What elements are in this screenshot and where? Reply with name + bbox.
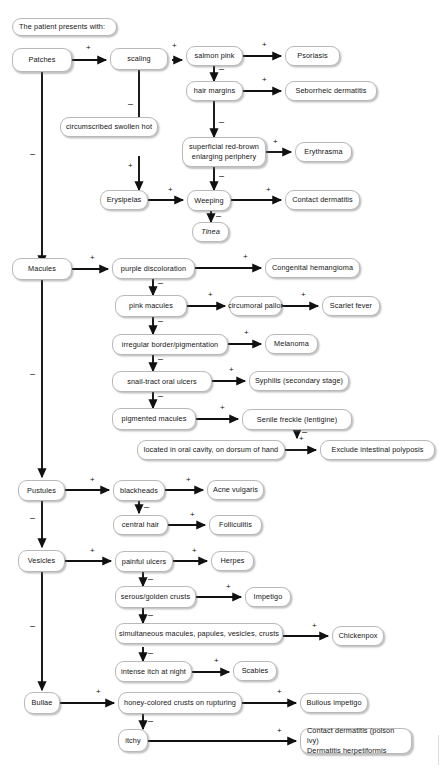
connector-layer [0, 0, 442, 772]
node-chickenpox[interactable]: Chickenpox [332, 626, 384, 646]
sign-serous-impetigo: + [226, 583, 231, 591]
sign-vesicles-painful: + [90, 547, 95, 555]
sign-macules-purple: + [90, 254, 95, 262]
sign-purple-pink: – [158, 279, 163, 288]
node-painful-ulcers[interactable]: painful ulcers [115, 551, 173, 572]
node-irregular-border[interactable]: irregular border/pigmentation [112, 334, 228, 355]
node-congenital-hemangioma[interactable]: Congenital hemangioma [265, 258, 360, 278]
sign-irregular-snail: – [158, 355, 163, 364]
node-snail-tract[interactable]: snail-tract oral ulcers [112, 371, 212, 392]
sign-scaling-salmon: + [172, 42, 177, 50]
sign-simultaneous-intense: – [148, 649, 153, 658]
node-pink-macules[interactable]: pink macules [115, 295, 187, 317]
sign-pink-irregular: – [158, 317, 163, 326]
sign-itchy-contact: + [277, 727, 282, 735]
sign-hair-seborrheic: + [262, 76, 267, 84]
node-intense-itch[interactable]: intense itch at night [115, 661, 192, 682]
page-edge-mark [438, 735, 442, 765]
sign-macules-pustules: – [30, 370, 35, 379]
node-hair-margins[interactable]: hair margins [186, 81, 243, 101]
intro-box: The patient presents with: [12, 18, 117, 36]
sign-intense-scabies: + [214, 657, 219, 665]
sign-honey-bullous: + [277, 688, 282, 696]
sign-bullae-honey: + [96, 688, 101, 696]
node-patches[interactable]: Patches [12, 48, 72, 72]
sign-pustules-vesicles: – [30, 514, 35, 523]
node-acne-vulgaris[interactable]: Acne vulgaris [207, 480, 264, 500]
sign-serous-simultaneous: – [148, 611, 153, 620]
sign-pigmented-senile: + [220, 404, 225, 412]
contact-poison-ivy-line2: Dermatitis herpetiformis [307, 746, 386, 756]
contact-poison-ivy-line1: Contact dermatitis (poison ivy) [307, 726, 407, 746]
node-contact-dermatitis[interactable]: Contact dermatitis [285, 190, 360, 210]
node-scaling[interactable]: scaling [110, 48, 168, 70]
node-melanoma[interactable]: Melanoma [265, 334, 318, 354]
sign-patches-scaling: + [86, 44, 91, 52]
node-senile-freckle[interactable]: Senile freckle (lentigine) [242, 409, 352, 430]
node-vesicles[interactable]: Vesicles [18, 550, 65, 572]
sign-pink-circumoral: + [208, 291, 213, 299]
node-serous-golden-crusts[interactable]: serous/golden crusts [115, 586, 196, 608]
sign-hair-superficial: – [219, 118, 224, 127]
node-simultaneous[interactable]: simultaneous macules, papules, vesicles,… [115, 623, 283, 644]
sign-blackheads-central: – [144, 503, 149, 512]
node-macules[interactable]: Macules [12, 258, 72, 280]
sign-patches-macules: – [30, 150, 35, 159]
sign-superficial-weeping: – [219, 172, 224, 181]
node-oral-cavity[interactable]: located in oral cavity, on dorsum of han… [137, 440, 285, 460]
node-circumoral-pallor[interactable]: circumoral pallor [229, 296, 282, 316]
node-honey-colored[interactable]: honey-colored crusts on rupturing [118, 692, 242, 714]
node-contact-poison-ivy[interactable]: Contact dermatitis (poison ivy) Dermatit… [300, 728, 412, 754]
node-bullous-impetigo[interactable]: Bullous impetigo [300, 693, 368, 713]
node-folliculitis[interactable]: Folliculitis [209, 515, 262, 535]
sign-weeping-tinea: – [216, 212, 221, 221]
node-salmon-pink[interactable]: salmon pink [186, 46, 243, 66]
sign-painful-serous: – [148, 575, 153, 584]
node-blackheads[interactable]: blackheads [113, 480, 165, 501]
flowchart-canvas: The patient presents with: Patches scali… [0, 0, 442, 772]
node-erythrasma[interactable]: Erythrasma [295, 142, 352, 162]
node-weeping[interactable]: Weeping [187, 190, 231, 211]
sign-blackheads-acne: + [186, 476, 191, 484]
sign-vesicles-bullae: – [30, 622, 35, 631]
sign-superficial-erythrasma: + [273, 138, 278, 146]
node-psoriasis[interactable]: Psoriasis [285, 46, 340, 66]
node-bullae[interactable]: Bullae [24, 692, 60, 714]
node-central-hair[interactable]: central hair [113, 515, 168, 535]
sign-weeping-contact: + [266, 186, 271, 194]
sign-salmon-hair: – [219, 65, 224, 74]
sign-salmon-psoriasis: + [262, 41, 267, 49]
node-tinea[interactable]: Tinea [192, 222, 229, 242]
node-pigmented-macules[interactable]: pigmented macules [112, 408, 196, 430]
node-erysipelas[interactable]: Erysipelas [100, 190, 148, 210]
node-purple-discoloration[interactable]: purple discoloration [112, 258, 195, 279]
node-circumscribed-swollen-hot[interactable]: circumscribed swollen hot [60, 117, 158, 137]
sign-erysipelas-weeping: + [168, 186, 173, 194]
sign-central-folliculitis: + [190, 511, 195, 519]
node-superficial-red-brown[interactable]: superficial red-brown enlarging peripher… [182, 137, 266, 167]
node-seborrheic-dermatitis[interactable]: Seborrheic dermatitis [285, 81, 377, 101]
node-herpes[interactable]: Herpes [211, 551, 254, 571]
sign-circumoral-scarlet: + [301, 291, 306, 299]
node-syphilis[interactable]: Syphilis (secondary stage) [249, 371, 349, 391]
sign-honey-itchy: – [148, 717, 153, 726]
sign-purple-hemangioma: + [243, 253, 248, 261]
node-pustules[interactable]: Pustules [18, 480, 65, 501]
sign-snail-pigmented: – [158, 392, 163, 401]
node-itchy[interactable]: itchy [118, 729, 148, 752]
sign-simultaneous-chickenpox: + [312, 622, 317, 630]
sign-pustules-blackheads: + [90, 476, 95, 484]
sign-snail-syphilis: + [229, 366, 234, 374]
sign-irregular-melanoma: + [244, 329, 249, 337]
sign-painful-herpes: + [192, 547, 197, 555]
sign-oral-exclude: + [299, 435, 304, 443]
node-exclude-polyposis[interactable]: Exclude intestinal polyposis [320, 440, 435, 460]
sign-scaling-circumscribed: – [128, 100, 133, 109]
node-impetigo[interactable]: Impetigo [245, 587, 291, 607]
sign-circumscribed-erysipelas: + [128, 162, 133, 170]
node-scarlet-fever[interactable]: Scarlet fever [322, 296, 380, 316]
node-scabies[interactable]: Scabies [233, 661, 277, 681]
